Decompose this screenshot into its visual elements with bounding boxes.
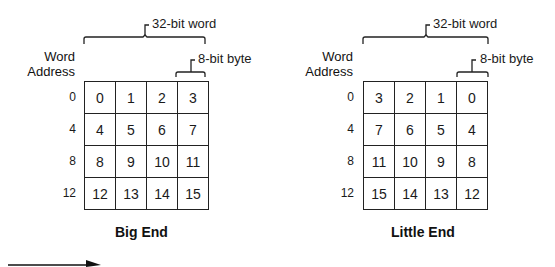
arrow-right-icon xyxy=(8,260,101,267)
byte-cell: 8 xyxy=(85,146,116,178)
table-row: 4 5 6 7 xyxy=(85,114,209,146)
word-address-header: Word Address xyxy=(5,49,75,79)
address-label: 8 xyxy=(330,154,354,168)
byte-cell: 3 xyxy=(364,82,395,114)
byte-cell: 12 xyxy=(85,178,116,210)
byte-cell: 2 xyxy=(395,82,426,114)
byte-cell: 5 xyxy=(426,114,457,146)
byte-cell: 2 xyxy=(147,82,178,114)
address-label: 0 xyxy=(52,90,76,104)
table-row: 7 6 5 4 xyxy=(364,114,488,146)
byte-cell: 0 xyxy=(85,82,116,114)
byte-cell: 13 xyxy=(426,178,457,210)
byte-cell: 13 xyxy=(116,178,147,210)
byte-brace-big xyxy=(176,72,205,77)
memory-grid-little-end: 3 2 1 0 7 6 5 4 11 10 9 8 15 14 13 12 xyxy=(363,81,488,210)
byte-cell: 10 xyxy=(395,146,426,178)
byte-cell: 9 xyxy=(426,146,457,178)
byte-cell: 15 xyxy=(178,178,209,210)
word-brace-little xyxy=(363,35,488,44)
table-row: 12 13 14 15 xyxy=(85,178,209,210)
address-label: 12 xyxy=(330,186,354,200)
byte-cell: 11 xyxy=(178,146,209,178)
table-row: 3 2 1 0 xyxy=(364,82,488,114)
byte-cell: 14 xyxy=(147,178,178,210)
address-label: 0 xyxy=(330,90,354,104)
byte-size-label: 8-bit byte xyxy=(198,52,251,66)
byte-cell: 9 xyxy=(116,146,147,178)
address-label: 4 xyxy=(52,122,76,136)
byte-cell: 7 xyxy=(178,114,209,146)
address-label: 8 xyxy=(52,154,76,168)
byte-cell: 1 xyxy=(116,82,147,114)
memory-grid-big-end: 0 1 2 3 4 5 6 7 8 9 10 11 12 13 14 15 xyxy=(84,81,209,210)
byte-cell: 7 xyxy=(364,114,395,146)
byte-cell: 15 xyxy=(364,178,395,210)
word-size-label: 32-bit word xyxy=(152,17,216,31)
word-size-label: 32-bit word xyxy=(433,17,497,31)
byte-cell: 0 xyxy=(457,82,488,114)
byte-cell: 11 xyxy=(364,146,395,178)
word-address-header: Word Address xyxy=(283,49,353,79)
diagram-title: Big End xyxy=(115,224,168,240)
byte-cell: 10 xyxy=(147,146,178,178)
address-label: 4 xyxy=(330,122,354,136)
table-row: 15 14 13 12 xyxy=(364,178,488,210)
byte-cell: 1 xyxy=(426,82,457,114)
table-row: 8 9 10 11 xyxy=(85,146,209,178)
byte-cell: 4 xyxy=(85,114,116,146)
byte-cell: 12 xyxy=(457,178,488,210)
byte-brace-little xyxy=(457,72,488,77)
address-label: 12 xyxy=(52,186,76,200)
table-row: 11 10 9 8 xyxy=(364,146,488,178)
word-brace-big xyxy=(84,35,205,44)
byte-cell: 5 xyxy=(116,114,147,146)
byte-cell: 4 xyxy=(457,114,488,146)
byte-size-label: 8-bit byte xyxy=(480,52,533,66)
byte-cell: 3 xyxy=(178,82,209,114)
byte-cell: 8 xyxy=(457,146,488,178)
byte-cell: 6 xyxy=(147,114,178,146)
table-row: 0 1 2 3 xyxy=(85,82,209,114)
byte-cell: 14 xyxy=(395,178,426,210)
diagram-title: Little End xyxy=(391,224,455,240)
byte-cell: 6 xyxy=(395,114,426,146)
